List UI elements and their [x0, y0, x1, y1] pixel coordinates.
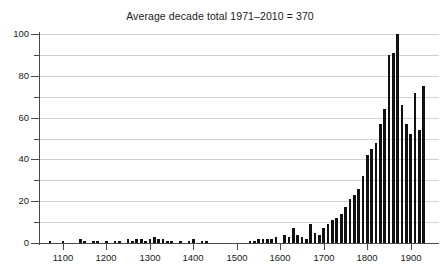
bar [292, 228, 295, 243]
bar-series [39, 34, 440, 243]
x-axis-label: 1400 [182, 252, 203, 263]
y-axis-label: 0 [1, 238, 29, 248]
x-axis-label: 1200 [95, 252, 116, 263]
x-axis-label: 1900 [400, 252, 421, 263]
x-axis-tick [150, 243, 151, 250]
y-axis-label: 20 [1, 196, 29, 206]
bar [253, 241, 256, 243]
y-axis-label: 40 [1, 154, 29, 164]
bar [131, 241, 134, 243]
bar [418, 130, 421, 243]
y-axis-tick-major [31, 201, 39, 202]
bar [262, 239, 265, 243]
bar [349, 199, 352, 243]
bar [331, 220, 334, 243]
x-axis-tick [106, 243, 107, 250]
bar [92, 241, 95, 243]
bar [140, 239, 143, 243]
bar [366, 155, 369, 243]
bar [401, 105, 404, 243]
bar [118, 241, 121, 243]
y-axis-tick-major [31, 159, 39, 160]
x-axis-tick [237, 243, 238, 250]
x-axis-tick [324, 243, 325, 250]
bar [127, 239, 130, 243]
bar [318, 235, 321, 243]
bar [309, 224, 312, 243]
x-axis-label: 1800 [356, 252, 377, 263]
bar [370, 149, 373, 243]
bar [79, 239, 82, 243]
bar [114, 241, 117, 243]
bar [305, 239, 308, 243]
bar [335, 218, 338, 243]
y-axis-tick-major [31, 34, 39, 35]
bar [357, 189, 360, 243]
x-axis-tick [193, 243, 194, 250]
bar [301, 237, 304, 243]
bar [344, 207, 347, 243]
bar [396, 34, 399, 243]
bar [275, 237, 278, 243]
bar [162, 239, 165, 243]
bar [414, 93, 417, 243]
bar [170, 241, 173, 243]
bar [383, 109, 386, 243]
chart-title: Average decade total 1971–2010 = 370 [0, 10, 440, 22]
y-axis-label: 100 [1, 29, 29, 39]
x-axis-tick [63, 243, 64, 250]
y-axis-tick-major [31, 118, 39, 119]
bar [83, 241, 86, 243]
bar [353, 195, 356, 243]
bar [266, 239, 269, 243]
bar [249, 241, 252, 243]
y-axis-label: 60 [1, 113, 29, 123]
bar [166, 241, 169, 243]
y-axis-labels: 020406080100 [0, 0, 29, 277]
bar [379, 124, 382, 243]
bar [362, 176, 365, 243]
bar [288, 237, 291, 243]
bar [388, 55, 391, 243]
bar [49, 241, 52, 243]
bar [201, 241, 204, 243]
bar [296, 235, 299, 243]
bar [283, 235, 286, 243]
x-axis-tick [411, 243, 412, 250]
bar [188, 241, 191, 243]
x-axis-label: 1300 [139, 252, 160, 263]
bar [257, 239, 260, 243]
bar [340, 214, 343, 243]
bar [327, 224, 330, 243]
y-axis-tick-major [31, 76, 39, 77]
bar [409, 134, 412, 243]
bar [322, 228, 325, 243]
bar [153, 237, 156, 243]
x-axis-line [39, 243, 439, 244]
bar [422, 86, 425, 243]
bar [96, 241, 99, 243]
x-axis-label: 1700 [313, 252, 334, 263]
bar [179, 241, 182, 243]
chart-container: Average decade total 1971–2010 = 370 020… [0, 0, 440, 277]
bar [314, 233, 317, 243]
bar [392, 53, 395, 243]
bar [405, 124, 408, 243]
x-axis-label: 1100 [53, 252, 73, 263]
bar [135, 239, 138, 243]
bar [157, 239, 160, 243]
x-axis-tick [280, 243, 281, 250]
x-axis-label: 1600 [269, 252, 290, 263]
y-axis-label: 80 [1, 71, 29, 81]
bar [270, 239, 273, 243]
bar [375, 143, 378, 243]
x-axis-tick [367, 243, 368, 250]
y-axis-tick-major [31, 243, 39, 244]
x-axis-label: 1500 [226, 252, 247, 263]
bar [144, 241, 147, 243]
bar [205, 241, 208, 243]
